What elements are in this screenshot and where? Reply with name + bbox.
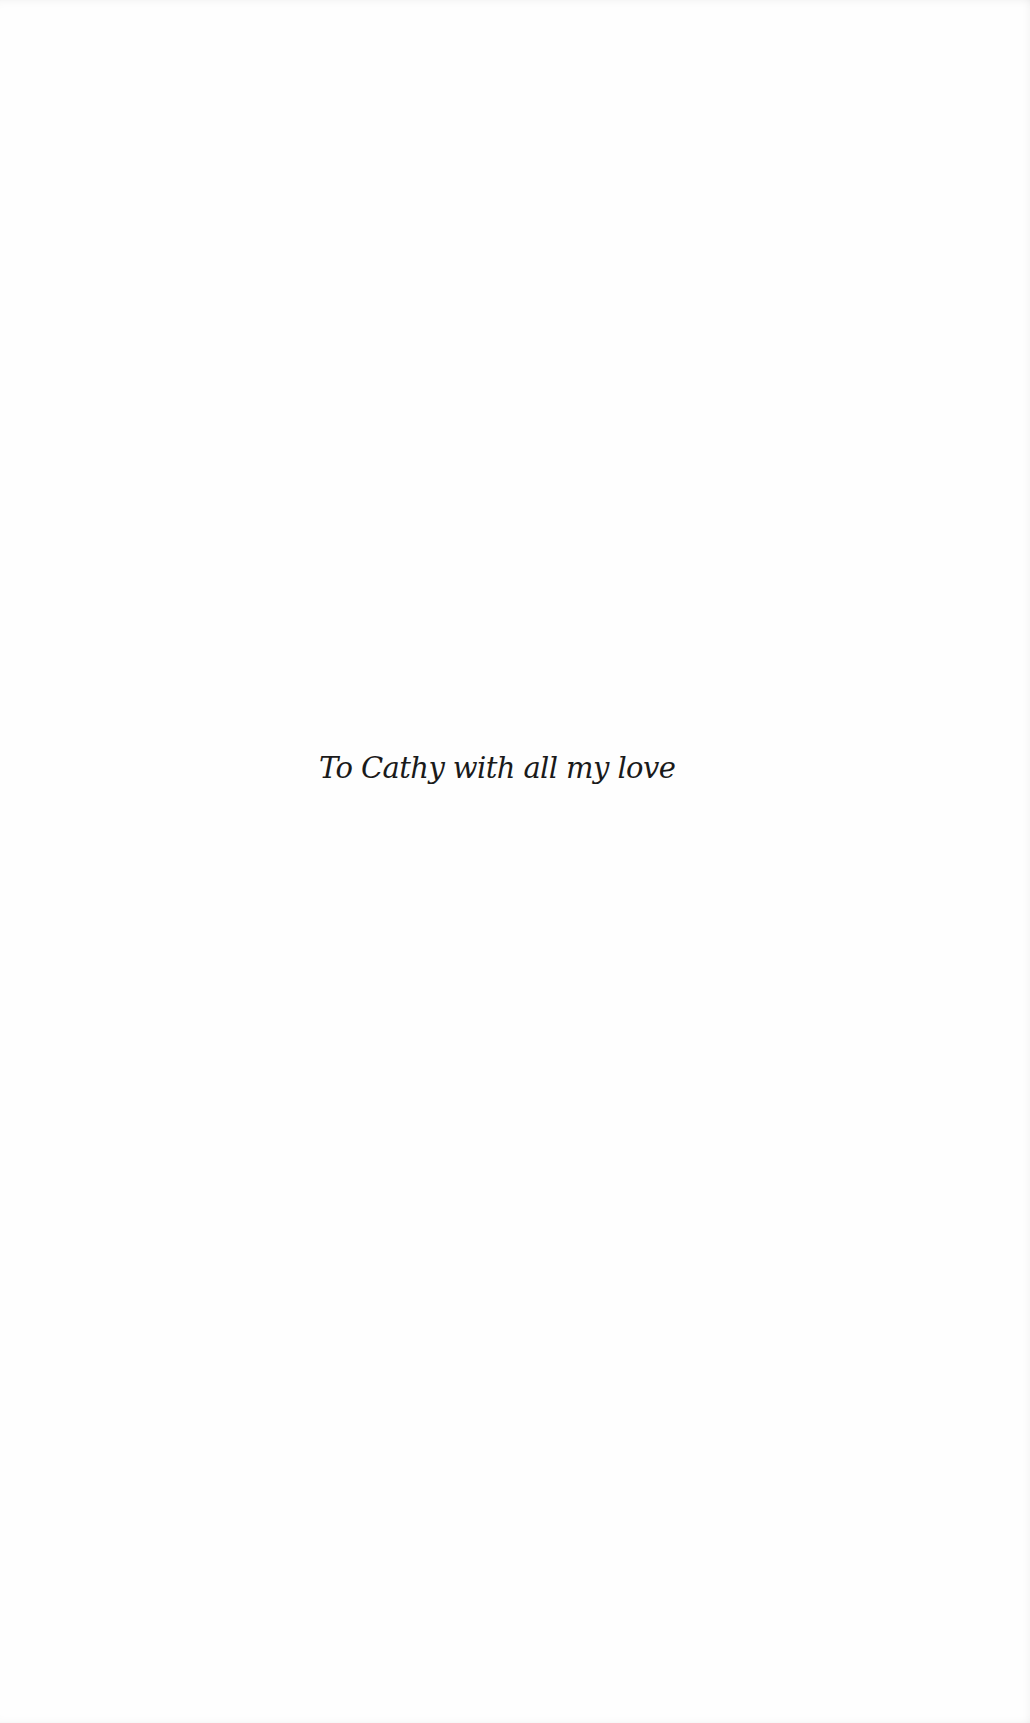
book-page: To Cathy with all my love [0,0,1030,1723]
dedication-text: To Cathy with all my love [319,748,659,788]
